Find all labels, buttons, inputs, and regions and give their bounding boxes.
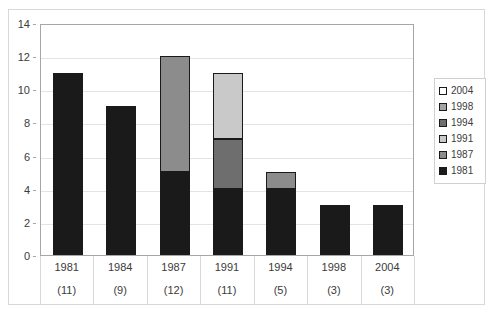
x-axis-category-cell: 1998(3) (307, 256, 360, 304)
legend-swatch-icon (439, 135, 447, 143)
legend-item[interactable]: 1991 (439, 131, 482, 147)
x-axis-category-label: 1984 (93, 261, 146, 273)
x-axis-category-cell: 2004(3) (361, 256, 414, 304)
x-axis-separator (307, 256, 308, 304)
bar-segment[interactable] (266, 189, 296, 255)
x-axis-separator (254, 256, 255, 304)
bar-segment[interactable] (213, 73, 243, 139)
x-axis-category-total: (12) (147, 284, 200, 296)
plot-area (40, 24, 414, 256)
legend-swatch-icon (439, 103, 447, 111)
chart-root: 02468101214 1981(11)1984(9)1987(12)1991(… (0, 0, 494, 315)
x-axis-separator (414, 256, 415, 304)
bar-column[interactable] (213, 23, 243, 255)
x-axis-category-total: (5) (254, 284, 307, 296)
bar-column[interactable] (373, 23, 403, 255)
legend-label: 1981 (451, 166, 473, 176)
bar-column[interactable] (106, 23, 136, 255)
x-axis-category-cell: 1981(11) (40, 256, 93, 304)
legend-swatch-icon (439, 151, 447, 159)
x-axis-category-total: (11) (40, 284, 93, 296)
bar-segment[interactable] (266, 172, 296, 189)
x-axis-separator (361, 256, 362, 304)
legend-swatch-icon (439, 87, 447, 95)
y-tick-label: 4 (24, 184, 30, 195)
y-tick-label: 0 (24, 251, 30, 262)
legend-item[interactable]: 1998 (439, 99, 482, 115)
x-axis-category-cell: 1987(12) (147, 256, 200, 304)
y-tick-mark (33, 57, 36, 58)
y-tick-mark (33, 90, 36, 91)
legend-label: 1991 (451, 134, 473, 144)
y-tick-label: 14 (18, 19, 30, 30)
x-axis-category-label: 1998 (307, 261, 360, 273)
x-axis-separator (147, 256, 148, 304)
x-axis-category-label: 2004 (361, 261, 414, 273)
bar-column[interactable] (53, 23, 83, 255)
y-tick-mark (33, 24, 36, 25)
bar-segment[interactable] (213, 139, 243, 189)
x-axis-category-label: 1987 (147, 261, 200, 273)
x-axis-category-label: 1991 (200, 261, 253, 273)
y-tick-label: 8 (24, 118, 30, 129)
legend-label: 1998 (451, 102, 473, 112)
x-axis-category-total: (3) (361, 284, 414, 296)
x-axis-category-total: (11) (200, 284, 253, 296)
legend-item[interactable]: 1981 (439, 163, 482, 179)
legend-item[interactable]: 1994 (439, 115, 482, 131)
y-tick-mark (33, 256, 36, 257)
legend-swatch-icon (439, 119, 447, 127)
x-axis-category-cell: 1991(11) (200, 256, 253, 304)
legend-label: 1994 (451, 118, 473, 128)
bar-segment[interactable] (320, 205, 350, 255)
bars-layer (41, 25, 413, 255)
y-tick-mark (33, 157, 36, 158)
x-axis-label-table: 1981(11)1984(9)1987(12)1991(11)1994(5)19… (40, 256, 414, 304)
y-tick-mark (33, 190, 36, 191)
bar-column[interactable] (160, 23, 190, 255)
legend: 200419981994199119871981 (434, 78, 486, 184)
bar-segment[interactable] (160, 56, 190, 172)
y-tick-label: 10 (18, 85, 30, 96)
chart-title-cropped (0, 0, 494, 8)
bar-segment[interactable] (53, 73, 83, 255)
x-axis-separator (40, 256, 41, 304)
legend-item[interactable]: 2004 (439, 83, 482, 99)
legend-item[interactable]: 1987 (439, 147, 482, 163)
x-axis-separator (200, 256, 201, 304)
x-axis-category-cell: 1994(5) (254, 256, 307, 304)
bar-segment[interactable] (213, 189, 243, 255)
y-axis: 02468101214 (0, 24, 36, 256)
y-tick-label: 2 (24, 217, 30, 228)
bar-segment[interactable] (160, 172, 190, 255)
x-axis-separator (93, 256, 94, 304)
bar-column[interactable] (266, 23, 296, 255)
x-axis-category-total: (9) (93, 284, 146, 296)
y-tick-mark (33, 223, 36, 224)
x-axis-bottom-rule (40, 304, 414, 305)
x-axis-category-total: (3) (307, 284, 360, 296)
legend-label: 2004 (451, 86, 473, 96)
legend-swatch-icon (439, 167, 447, 175)
bar-column[interactable] (320, 23, 350, 255)
x-axis-category-label: 1981 (40, 261, 93, 273)
legend-label: 1987 (451, 150, 473, 160)
y-tick-label: 12 (18, 52, 30, 63)
bar-segment[interactable] (373, 205, 403, 255)
x-axis-category-label: 1994 (254, 261, 307, 273)
y-tick-mark (33, 123, 36, 124)
bar-segment[interactable] (106, 106, 136, 255)
x-axis-category-cell: 1984(9) (93, 256, 146, 304)
y-tick-label: 6 (24, 151, 30, 162)
